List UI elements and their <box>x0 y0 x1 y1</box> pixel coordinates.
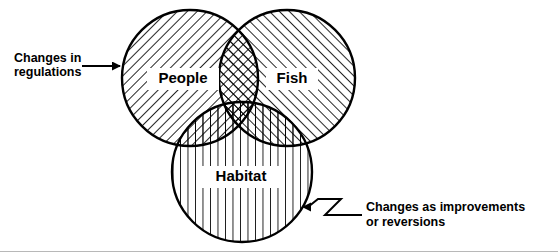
venn-diagram-canvas: People Fish Habitat Changes in regulatio… <box>0 0 558 252</box>
improvements-callout-line-1: Changes as improvements <box>366 200 525 214</box>
regulations-callout-line-2: regulations <box>14 65 81 79</box>
habitat-label: Habitat <box>216 167 267 184</box>
improvements-callout-line-2: or reversions <box>366 215 445 229</box>
callout-changes-in-regulations: Changes in regulations <box>14 51 120 79</box>
improvements-arrow-zigzag <box>308 199 362 215</box>
callout-changes-as-improvements: Changes as improvements or reversions <box>302 199 525 229</box>
fish-label: Fish <box>277 69 308 86</box>
venn-diagram-figure: People Fish Habitat Changes in regulatio… <box>0 0 558 252</box>
people-label: People <box>158 69 207 86</box>
regulations-callout-line-1: Changes in <box>14 51 81 65</box>
